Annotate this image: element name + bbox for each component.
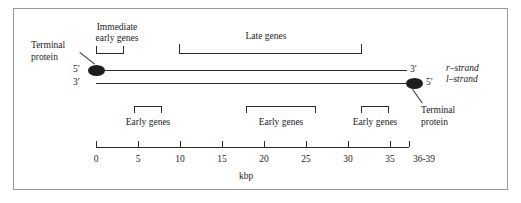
r-strand-label: r–strand [446,63,479,74]
early-genes-label-2: Early genes [259,117,304,128]
immediate-early-genes-bracket [96,46,124,54]
axis-ticklabel-0: 0 [94,154,99,164]
axis-ticklabel-35: 35 [385,154,395,164]
immediate-early-genes-label-line1: Immediate [97,22,138,33]
immediate-early-genes-label-line2: early genes [96,33,139,44]
early-genes-bracket-3 [361,106,389,113]
early-genes-label-1: Early genes [126,117,171,128]
terminal-protein-left-line2: protein [31,52,58,63]
terminal-protein-right-ellipse [406,78,423,89]
l-strand-line [96,83,414,84]
axis-ticklabel-36-39: 36-39 [413,154,435,164]
axis-ticklabel-30: 30 [343,154,353,164]
axis-tick-20 [264,141,265,147]
l-strand-label: l–strand [446,74,478,85]
early-genes-bracket-2 [246,106,316,113]
late-genes-label: Late genes [246,31,287,42]
terminal-protein-left-ellipse [88,65,105,76]
axis-ticklabel-20: 20 [259,154,269,164]
right-5prime-label: 5′ [426,77,433,88]
terminal-protein-left-line1: Terminal [31,40,65,51]
early-genes-label-3: Early genes [353,117,398,128]
axis-tick-5 [138,141,139,147]
terminal-protein-right-line2: protein [421,117,448,128]
left-5prime-label: 5′ [73,64,80,75]
axis-tick-30 [348,141,349,147]
axis-tick-36-39 [409,141,410,147]
axis-tick-25 [306,141,307,147]
terminal-protein-right-line1: Terminal [421,105,455,116]
r-strand-line [96,70,407,71]
axis-ticklabel-15: 15 [217,154,227,164]
axis-title: kbp [239,171,253,181]
axis-ticklabel-5: 5 [136,154,141,164]
axis-tick-15 [222,141,223,147]
axis-line [96,147,409,148]
left-3prime-label: 3′ [73,77,80,88]
axis-tick-35 [390,141,391,147]
genome-map-figure: Terminal protein Immediate early genes L… [0,0,521,203]
figure-border: Terminal protein Immediate early genes L… [13,8,508,190]
terminal-protein-left-leader-line [79,52,95,64]
axis-ticklabel-25: 25 [301,154,311,164]
axis-tick-10 [180,141,181,147]
terminal-protein-right-leader-line [412,89,423,103]
axis-ticklabel-10: 10 [175,154,185,164]
early-genes-bracket-1 [134,106,162,113]
late-genes-bracket [179,44,362,54]
right-3prime-label: 3′ [410,64,417,75]
axis-tick-0 [96,141,97,147]
